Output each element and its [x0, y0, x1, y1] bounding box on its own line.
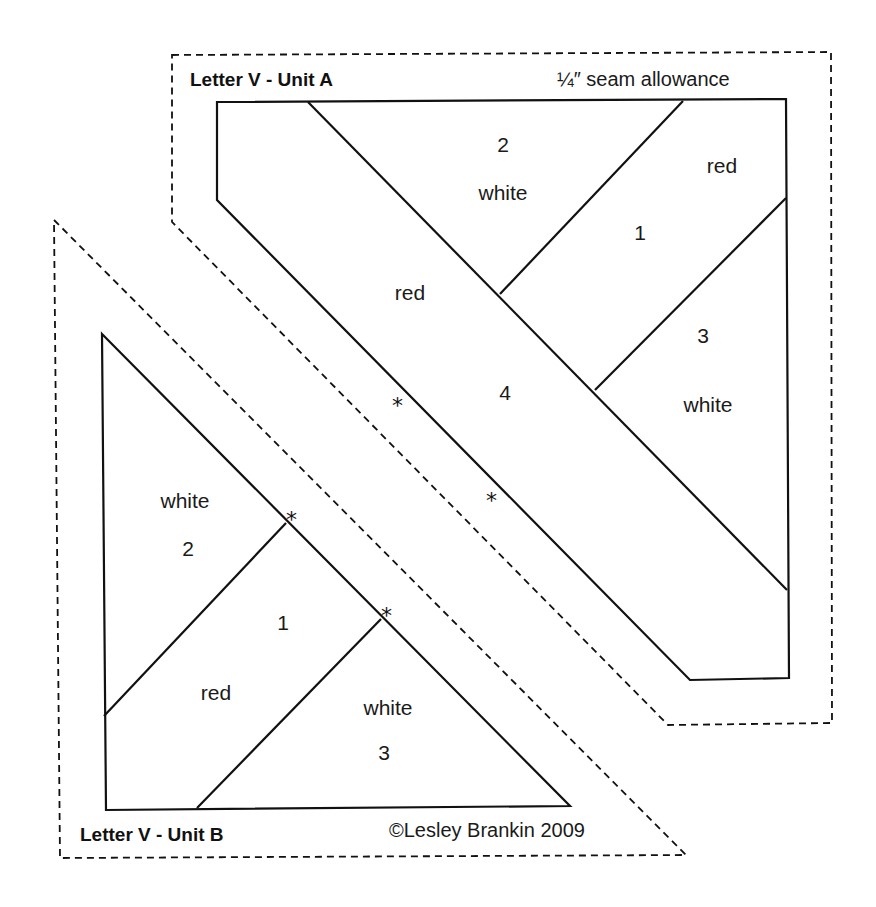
- alignment-star-marker: *: [286, 507, 297, 532]
- unit-b-seam-line-2: [104, 523, 286, 716]
- alignment-star-marker: *: [486, 488, 497, 513]
- unit-a-piece-3-color: white: [682, 393, 732, 416]
- unit-b: Letter V - Unit B ©Lesley Brankin 2009 w…: [54, 220, 686, 858]
- alignment-star-marker: *: [392, 393, 403, 418]
- seam-allowance-note: ¼″ seam allowance: [557, 68, 730, 90]
- unit-b-piece-3-number: 3: [378, 741, 390, 764]
- unit-a-piece-2-number: 2: [497, 133, 509, 156]
- unit-b-piece-2-number: 2: [182, 537, 194, 560]
- unit-a-title: Letter V - Unit A: [190, 69, 333, 90]
- unit-b-piece-1-color: red: [201, 681, 231, 704]
- unit-a-piece-1-color: red: [707, 154, 737, 177]
- unit-b-piece-2-color: white: [159, 489, 209, 512]
- unit-a: Letter V - Unit A ¼″ seam allowance 2 wh…: [172, 52, 832, 725]
- unit-a-piece-2-color: white: [477, 181, 527, 204]
- unit-a-piece-4-color: red: [395, 281, 425, 304]
- unit-a-seam-line-3: [595, 198, 786, 390]
- unit-b-piece-3-color: white: [362, 696, 412, 719]
- unit-b-title: Letter V - Unit B: [80, 824, 224, 845]
- foundation-pattern: Letter V - Unit A ¼″ seam allowance 2 wh…: [0, 0, 876, 907]
- unit-b-seam-line-3: [197, 619, 381, 808]
- unit-b-outline: [102, 334, 570, 810]
- alignment-star-marker: *: [381, 603, 392, 628]
- unit-b-piece-1-number: 1: [277, 611, 289, 634]
- unit-b-seam-allowance-outline: [54, 220, 686, 858]
- copyright-text: ©Lesley Brankin 2009: [389, 819, 585, 841]
- unit-a-piece-3-number: 3: [697, 324, 709, 347]
- unit-a-piece-4-number: 4: [499, 381, 511, 404]
- unit-a-piece-1-number: 1: [634, 221, 646, 244]
